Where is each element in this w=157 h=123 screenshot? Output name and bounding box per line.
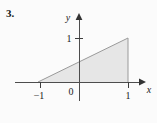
figure-container: 3. y x 1 −1 1 0 bbox=[0, 0, 157, 123]
y-tick-label-1: 1 bbox=[67, 33, 72, 44]
x-axis-arrow-icon bbox=[139, 79, 146, 86]
coordinate-plot: y x 1 −1 1 0 bbox=[0, 0, 157, 123]
x-tick-label-neg-1: −1 bbox=[34, 90, 45, 101]
y-axis-label: y bbox=[65, 12, 71, 23]
y-axis-arrow-icon bbox=[76, 13, 83, 20]
origin-label: 0 bbox=[69, 86, 74, 97]
x-tick-label-1: 1 bbox=[126, 90, 131, 101]
x-axis-label: x bbox=[146, 84, 152, 95]
